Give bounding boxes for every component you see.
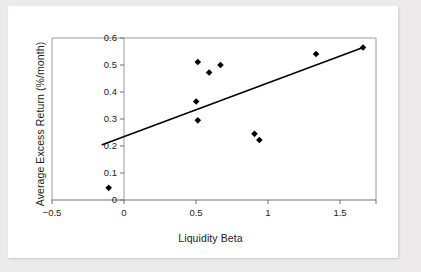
data-point xyxy=(313,51,320,58)
data-point xyxy=(217,62,224,69)
plot-frame xyxy=(52,38,376,200)
data-point xyxy=(206,69,213,76)
y-axis-title: Average Excess Return (%/month) xyxy=(34,24,46,224)
x-axis-title: Liquidity Beta xyxy=(0,232,421,244)
y-axis xyxy=(120,38,124,200)
data-point xyxy=(360,44,367,51)
x-tick-label: 0.5 xyxy=(189,207,202,218)
data-point xyxy=(251,131,258,138)
y-tick-labels: 0.6 0.5 0.4 0.3 0.2 0.1 0 xyxy=(104,32,117,205)
figure-page: −0.5 0 0.5 1 1.5 0.6 0.5 0.4 xyxy=(0,0,421,272)
y-tick-label: 0.3 xyxy=(104,113,117,124)
data-point xyxy=(193,98,200,105)
data-point xyxy=(195,117,202,124)
scatter-chart: −0.5 0 0.5 1 1.5 0.6 0.5 0.4 xyxy=(0,0,421,272)
data-point xyxy=(195,59,202,66)
y-tick-label: 0 xyxy=(112,194,117,205)
x-tick-label: 1 xyxy=(265,207,270,218)
y-tick-label: 0.1 xyxy=(104,167,117,178)
trend-line xyxy=(102,47,363,144)
x-tick-labels: −0.5 0 0.5 1 1.5 xyxy=(43,207,347,218)
scatter-points xyxy=(105,44,366,191)
x-tick-label: 0 xyxy=(121,207,126,218)
y-tick-label: 0.4 xyxy=(104,86,117,97)
y-tick-label: 0.5 xyxy=(104,59,117,70)
y-tick-label: 0.6 xyxy=(104,32,117,43)
x-axis xyxy=(52,200,376,204)
data-point xyxy=(105,185,112,192)
x-tick-label: 1.5 xyxy=(333,207,346,218)
data-point xyxy=(256,137,263,144)
